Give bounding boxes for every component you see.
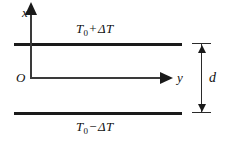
bottom-plate — [14, 112, 182, 115]
top-temp-subscript: 0 — [84, 28, 89, 38]
origin-label: O — [16, 71, 25, 84]
top-plate-temperature-label: T0+ΔT — [76, 22, 113, 35]
x-axis-label: x — [22, 6, 28, 19]
top-plate — [14, 43, 182, 46]
dimension-label-d: d — [209, 71, 216, 85]
dimension-arrowhead-bottom-icon — [198, 104, 206, 112]
dimension-arrowhead-top-icon — [198, 45, 206, 53]
x-axis-line — [30, 8, 32, 79]
y-axis-arrowhead-icon — [160, 72, 173, 84]
dimension-line — [201, 44, 202, 113]
bottom-temp-delta: ΔT — [98, 119, 113, 134]
y-axis-line — [30, 77, 163, 79]
bottom-plate-temperature-label: T0−ΔT — [76, 120, 113, 133]
bottom-temp-symbol: T — [76, 119, 84, 134]
physics-diagram-parallel-plates: x y O T0+ΔT T0−ΔT d — [0, 0, 226, 142]
bottom-temp-operator: − — [88, 119, 98, 134]
bottom-temp-subscript: 0 — [84, 126, 89, 136]
top-temp-symbol: T — [76, 21, 84, 36]
top-temp-operator: + — [88, 21, 98, 36]
top-temp-delta: ΔT — [98, 21, 113, 36]
y-axis-label: y — [177, 71, 183, 84]
